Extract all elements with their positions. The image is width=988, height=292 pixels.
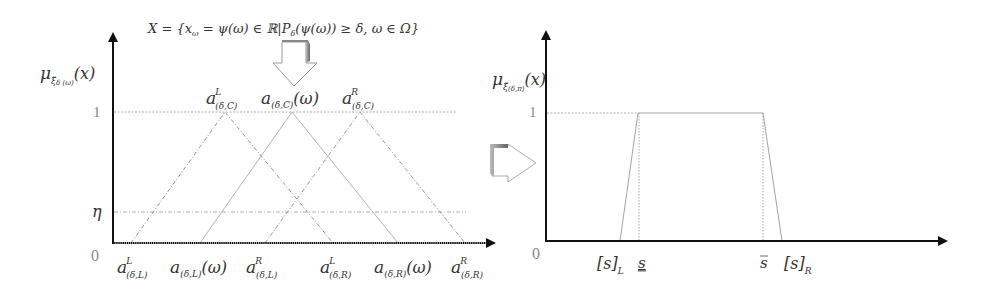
svg-text:a(δ,C)(ω): a(δ,C)(ω) xyxy=(261,88,319,110)
trapezoid-membership xyxy=(620,113,782,241)
svg-text:a(δ,R)(ω): a(δ,R)(ω) xyxy=(374,257,432,279)
top-labels: aL(δ,C) a(δ,C)(ω) aR(δ,C) xyxy=(206,87,375,111)
label-s-lower: s xyxy=(638,254,646,272)
y-axis-label-right: μξ̃(δ,π)(x) xyxy=(492,69,546,93)
label-s-upper: s xyxy=(760,254,768,272)
set-definition: X = {xω = ψ(ω) ∈ ℝ|Pδ(ψ(ω)) ≥ δ, ω ∈ Ω} xyxy=(147,21,419,38)
fuzzy-membership-diagram: X = {xω = ψ(ω) ∈ ℝ|Pδ(ψ(ω)) ≥ δ, ω ∈ Ω} … xyxy=(0,0,988,292)
label-s-R: [s]R xyxy=(784,254,812,276)
membership-triangle-R xyxy=(265,112,465,243)
svg-text:aR(δ,R): aR(δ,R) xyxy=(451,256,483,280)
y-axis-label-left: μξ̃δ (ω)(x) xyxy=(40,63,95,87)
svg-text:aR(δ,L): aR(δ,L) xyxy=(246,256,278,280)
tick-zero-left: 0 xyxy=(91,247,99,264)
down-arrow-icon xyxy=(273,40,317,86)
tick-eta: η xyxy=(92,202,102,221)
tick-zero-right: 0 xyxy=(532,245,540,262)
bottom-labels: aL(δ,L) a(δ,L)(ω) aR(δ,L) aL(δ,R) a(δ,R)… xyxy=(117,256,483,280)
svg-text:a(δ,L)(ω): a(δ,L)(ω) xyxy=(170,257,227,279)
right-arrow-icon xyxy=(490,144,536,182)
svg-text:aL(δ,R): aL(δ,R) xyxy=(320,256,352,280)
svg-text:aR(δ,C): aR(δ,C) xyxy=(342,87,375,111)
svg-text:aL(δ,L): aL(δ,L) xyxy=(117,256,148,280)
membership-triangle-C xyxy=(200,112,398,243)
label-s-L: [s]L xyxy=(597,254,624,276)
tick-one-left: 1 xyxy=(93,104,101,120)
right-chart: μξ̃(δ,π)(x) 1 0 [s]L s s [s]R xyxy=(492,32,946,276)
svg-text:aL(δ,C): aL(δ,C) xyxy=(206,87,238,111)
membership-triangle-L xyxy=(131,112,333,243)
tick-one-right: 1 xyxy=(529,104,537,120)
left-chart: X = {xω = ψ(ω) ∈ ℝ|Pδ(ψ(ω)) ≥ δ, ω ∈ Ω} … xyxy=(40,21,494,280)
